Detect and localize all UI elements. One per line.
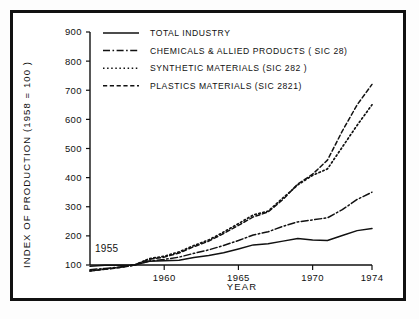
x-tick-label: 1970 <box>301 272 324 283</box>
x-axis-ticks <box>164 265 372 270</box>
y-tick-label: 700 <box>65 85 82 96</box>
chart-legend: TOTAL INDUSTRYCHEMICALS & ALLIED PRODUCT… <box>103 28 348 91</box>
y-tick-label: 900 <box>65 26 82 37</box>
y-tick-label: 400 <box>65 172 82 183</box>
y-tick-label: 600 <box>65 114 82 125</box>
legend-item-label: PLASTICS MATERIALS (SIC 2821) <box>150 81 302 91</box>
series-line <box>90 84 372 271</box>
legend-item-label: SYNTHETIC MATERIALS (SIC 282 ) <box>150 63 307 73</box>
y-tick-label: 200 <box>65 230 82 241</box>
legend-item-label: CHEMICALS & ALLIED PRODUCTS ( SIC 28) <box>150 46 348 56</box>
start-year-annotation: 1955 <box>95 243 119 254</box>
figure-canvas: 100200300400500600700800900 196019651970… <box>0 0 419 319</box>
series-line <box>90 229 372 267</box>
data-series-group <box>90 84 372 271</box>
series-line <box>90 192 372 269</box>
y-axis-title: INDEX OF PRODUCTION (1958 = 100 ) <box>21 61 32 268</box>
series-line <box>90 105 372 271</box>
y-tick-label: 100 <box>65 259 82 270</box>
x-tick-label: 1960 <box>153 272 176 283</box>
y-axis-tick-labels: 100200300400500600700800900 <box>65 26 82 270</box>
x-tick-label: 1974 <box>361 272 384 283</box>
y-tick-label: 300 <box>65 201 82 212</box>
y-tick-label: 800 <box>65 56 82 67</box>
y-tick-label: 500 <box>65 143 82 154</box>
x-axis-title: YEAR <box>227 281 257 292</box>
x-axis-tick-labels: 1960196519701974 <box>153 272 384 283</box>
legend-item-label: TOTAL INDUSTRY <box>150 28 230 38</box>
line-chart: 100200300400500600700800900 196019651970… <box>0 0 419 319</box>
